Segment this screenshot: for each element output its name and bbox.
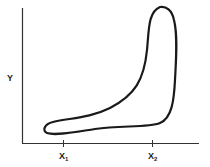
- x1-label: X1: [59, 152, 68, 162]
- diagram-canvas: [0, 0, 210, 167]
- x2-label: X2: [148, 152, 157, 162]
- x1-label-subscript: 1: [65, 156, 68, 162]
- banana-contour-curve: [44, 7, 176, 134]
- y-axis-label-text: Y: [7, 73, 13, 83]
- y-axis-label: Y: [7, 74, 13, 83]
- x2-label-subscript: 2: [154, 156, 157, 162]
- banana-contour-diagram: Y X1 X2: [0, 0, 210, 167]
